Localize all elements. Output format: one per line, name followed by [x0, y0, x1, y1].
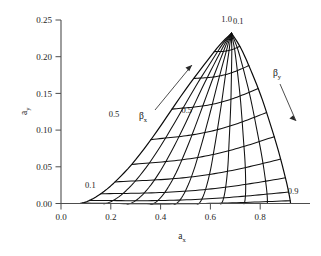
curve-annotations: 1.00.10.50.50.10.9	[85, 14, 298, 196]
chart-figure: 0.000.050.100.150.200.25 0.00.20.40.60.8…	[0, 0, 321, 256]
curve-value-label: 0.1	[233, 16, 244, 26]
y-tick-label: 0.10	[36, 125, 52, 135]
y-axis-title-sub: y	[24, 107, 31, 111]
mesh-line-beta-y	[232, 33, 246, 203]
beta-x-arrow-head	[186, 65, 193, 71]
y-tick-label: 0.00	[36, 199, 52, 209]
curve-value-label: 1.0	[221, 14, 232, 24]
curve-value-label: 0.9	[288, 186, 299, 196]
mesh-line-beta-x	[115, 159, 281, 182]
curve-value-label: 0.1	[85, 180, 96, 190]
mesh-line-beta-y	[103, 33, 231, 203]
svg-text:ay: ay	[19, 107, 31, 115]
y-axis-title: ay	[19, 107, 31, 115]
x-tick-label: 0.8	[255, 212, 267, 222]
x-tick-label: 0.4	[155, 212, 167, 222]
y-tick-label: 0.15	[36, 89, 52, 99]
svg-text:ax: ax	[178, 231, 186, 243]
x-axis-ticks: 0.00.20.40.60.8	[55, 204, 266, 223]
x-tick-label: 0.2	[105, 212, 116, 222]
beta-x-subscript: x	[144, 116, 148, 123]
mesh-line-beta-y	[173, 33, 231, 204]
x-tick-label: 0.6	[205, 212, 217, 222]
mesh-line-beta-x	[101, 178, 286, 194]
svg-text:βy: βy	[273, 68, 282, 80]
x-axis-title-sub: x	[182, 236, 186, 243]
mesh-line-beta-y	[232, 33, 268, 203]
beta-y-subscript: y	[278, 73, 282, 80]
beta-y-arrow-line	[280, 84, 296, 121]
curve-value-label: 0.5	[181, 105, 192, 115]
y-tick-label: 0.20	[36, 52, 52, 62]
y-axis-ticks: 0.000.050.100.150.200.25	[36, 15, 61, 209]
svg-text:βx: βx	[139, 111, 148, 123]
mesh-line-beta-y	[220, 33, 232, 204]
family-label-beta-y: βy	[273, 68, 296, 121]
x-tick-label: 0.0	[55, 212, 67, 222]
curve-value-label: 0.5	[109, 109, 120, 119]
plot-canvas: 0.000.050.100.150.200.25 0.00.20.40.60.8…	[0, 0, 321, 256]
y-tick-label: 0.05	[36, 162, 52, 172]
x-axis-title: ax	[178, 231, 186, 243]
y-tick-label: 0.25	[36, 15, 52, 25]
